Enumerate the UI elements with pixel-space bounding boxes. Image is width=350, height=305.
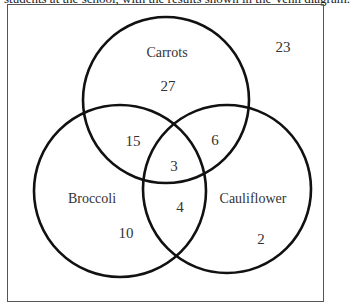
cauliflower-circle [143,105,311,273]
carrots-label: Carrots [146,45,187,61]
carrots-broccoli-count: 15 [126,133,141,150]
outside-count: 23 [276,39,291,56]
broccoli-cauliflower-count: 4 [176,199,184,216]
carrots-cauliflower-count: 6 [211,132,219,149]
broccoli-only-count: 10 [119,225,134,242]
carrots-only-count: 27 [161,78,176,95]
all-three-count: 3 [170,158,178,175]
broccoli-label: Broccoli [68,191,116,207]
cauliflower-only-count: 2 [257,231,265,248]
cauliflower-label: Cauliflower [220,191,287,207]
carrots-circle [83,17,249,183]
broccoli-circle [34,105,206,277]
